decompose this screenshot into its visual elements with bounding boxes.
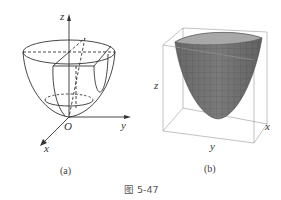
figure-caption: 图 5-47 — [124, 184, 159, 195]
z-axis-arrow-icon — [67, 14, 71, 21]
panel-b-x-label: x — [264, 120, 270, 132]
panel-a-diagram — [23, 14, 131, 146]
x-axis-label: x — [43, 142, 49, 154]
panel-b-diagram — [163, 28, 267, 143]
y-axis-label: y — [120, 119, 126, 131]
section-curve-front — [53, 66, 65, 116]
origin-label: O — [64, 120, 72, 132]
panel-b-y-label: y — [209, 140, 215, 152]
panel-b-z-label: z — [153, 79, 159, 91]
z-axis-label: z — [59, 10, 65, 22]
cut-line-2 — [94, 46, 111, 66]
panel-b-label: (b) — [204, 163, 216, 175]
figure-canvas: z y x O (a) z y x (b) — [0, 0, 281, 200]
panel-a-label: (a) — [60, 165, 71, 177]
